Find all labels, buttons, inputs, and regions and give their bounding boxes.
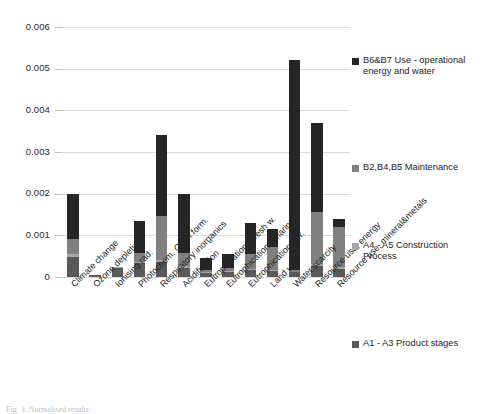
y-axis-tick (55, 27, 62, 28)
bar-segment (245, 254, 257, 269)
bar-segment (67, 239, 79, 254)
y-axis-tick-label: 0.002 (4, 187, 50, 198)
bar-column[interactable] (222, 254, 234, 277)
y-gridline (62, 194, 350, 195)
legend-label: B6&B7 Use - operational energy and water (363, 55, 478, 78)
legend-swatch-icon (352, 341, 359, 348)
y-axis-tick (55, 110, 62, 111)
bar-segment (267, 271, 279, 277)
y-axis-tick (55, 69, 62, 70)
bar-segment (178, 268, 190, 277)
legend-item[interactable]: A4 - A5 Construction Process (352, 240, 478, 263)
y-axis-tick-label: 0.004 (4, 104, 50, 115)
y-axis-tick-label: 0.006 (4, 21, 50, 32)
bar-column[interactable] (112, 267, 124, 277)
figure-caption: Fig. 3. Normalised results (6, 405, 89, 414)
plot-area: 00.0010.0020.0030.0040.0050.006 (62, 27, 350, 277)
bar-segment (311, 123, 323, 212)
y-axis-tick-label: 0.005 (4, 62, 50, 73)
bar-column[interactable] (333, 219, 345, 277)
bar-segment (289, 272, 301, 277)
bar-segment (311, 212, 323, 264)
y-gridline (62, 277, 350, 278)
bar-column[interactable] (134, 221, 146, 277)
bar-segment (156, 135, 168, 216)
bar-segment (333, 227, 345, 267)
y-gridline (62, 69, 350, 70)
bar-segment (134, 221, 146, 254)
bar-segment (67, 194, 79, 239)
legend-swatch-icon (352, 243, 359, 250)
bar-segment (267, 229, 279, 247)
y-gridline (62, 110, 350, 111)
bar-segment (178, 194, 190, 253)
legend-swatch-icon (352, 165, 359, 172)
legend-label: A4 - A5 Construction Process (363, 240, 478, 263)
y-axis-tick-label: 0.001 (4, 229, 50, 240)
bar-segment (333, 219, 345, 227)
bar-segment (67, 257, 79, 277)
legend-swatch-icon (352, 58, 359, 65)
y-axis-tick-label: 0 (4, 271, 50, 282)
bar-segment (311, 266, 323, 277)
legend-item[interactable]: B2,B4,B5 Maintenance (352, 162, 478, 173)
legend-item[interactable]: B6&B7 Use - operational energy and water (352, 55, 478, 78)
bar-segment (156, 262, 168, 277)
bar-column[interactable] (67, 194, 79, 277)
bar-segment (134, 253, 146, 261)
bar-segment (289, 60, 301, 270)
bar-column[interactable] (200, 258, 212, 277)
y-gridline (62, 235, 350, 236)
bar-segment (222, 272, 234, 277)
bar-segment (200, 258, 212, 270)
bar-column[interactable] (178, 194, 190, 277)
y-axis-tick (55, 235, 62, 236)
y-gridline (62, 152, 350, 153)
bar-segment (112, 268, 124, 277)
bar-segment (156, 216, 168, 260)
bar-column[interactable] (245, 223, 257, 277)
bar-segment (134, 263, 146, 277)
bar-column[interactable] (311, 123, 323, 277)
bar-segment (89, 275, 101, 277)
bar-segment (245, 270, 257, 277)
bar-column[interactable] (156, 135, 168, 277)
legend-label: A1 - A3 Product stages (363, 338, 458, 349)
bar-column[interactable] (289, 60, 301, 277)
bar-segment (245, 223, 257, 254)
legend-label: B2,B4,B5 Maintenance (363, 162, 458, 173)
y-axis-tick (55, 194, 62, 195)
chart-container: 00.0010.0020.0030.0040.0050.006 Climate … (0, 0, 480, 414)
bar-segment (222, 254, 234, 268)
bar-segment (178, 253, 190, 266)
y-gridline (62, 27, 350, 28)
y-axis-tick (55, 277, 62, 278)
bar-column[interactable] (267, 229, 279, 277)
y-axis-tick-label: 0.003 (4, 146, 50, 157)
bar-segment (333, 269, 345, 277)
legend-item[interactable]: A1 - A3 Product stages (352, 338, 478, 349)
bar-column[interactable] (89, 275, 101, 277)
bar-segment (200, 273, 212, 277)
y-axis-tick (55, 152, 62, 153)
bar-segment (267, 247, 279, 269)
